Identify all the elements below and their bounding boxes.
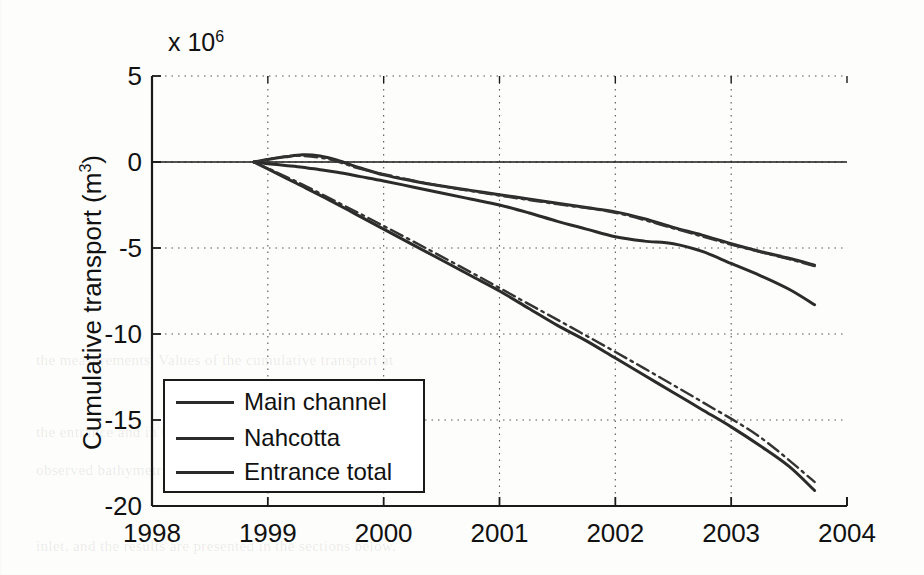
legend: Main channel Nahcotta Entrance total (163, 379, 425, 493)
legend-swatch-entrance-total (176, 471, 234, 474)
x-tick-label: 2003 (702, 518, 760, 549)
y-tick-label: -20 (56, 491, 142, 522)
x-tick-label: 1999 (239, 518, 297, 549)
y-tick-label: -10 (56, 319, 142, 350)
x-tick-label: 2004 (818, 518, 876, 549)
x-tick-label: 2002 (586, 518, 644, 549)
figure-container: the measurements. Values of the cumulati… (0, 0, 924, 575)
legend-item-entrance-total: Entrance total (165, 455, 423, 489)
y-tick-label: -5 (56, 233, 142, 264)
x-tick-label: 2001 (471, 518, 529, 549)
series-line-1 (254, 162, 815, 305)
legend-item-nahcotta: Nahcotta (165, 421, 423, 455)
legend-label-main-channel: Main channel (244, 388, 387, 416)
legend-item-main-channel: Main channel (165, 385, 423, 419)
legend-label-nahcotta: Nahcotta (244, 424, 340, 452)
y-tick-label: 0 (56, 147, 142, 178)
y-tick-label: -15 (56, 405, 142, 436)
x-tick-label: 2000 (355, 518, 413, 549)
y-tick-label: 5 (56, 61, 142, 92)
legend-swatch-nahcotta (176, 437, 234, 440)
legend-swatch-main-channel (176, 401, 234, 404)
legend-label-entrance-total: Entrance total (244, 458, 392, 486)
x-tick-label: 1998 (123, 518, 181, 549)
